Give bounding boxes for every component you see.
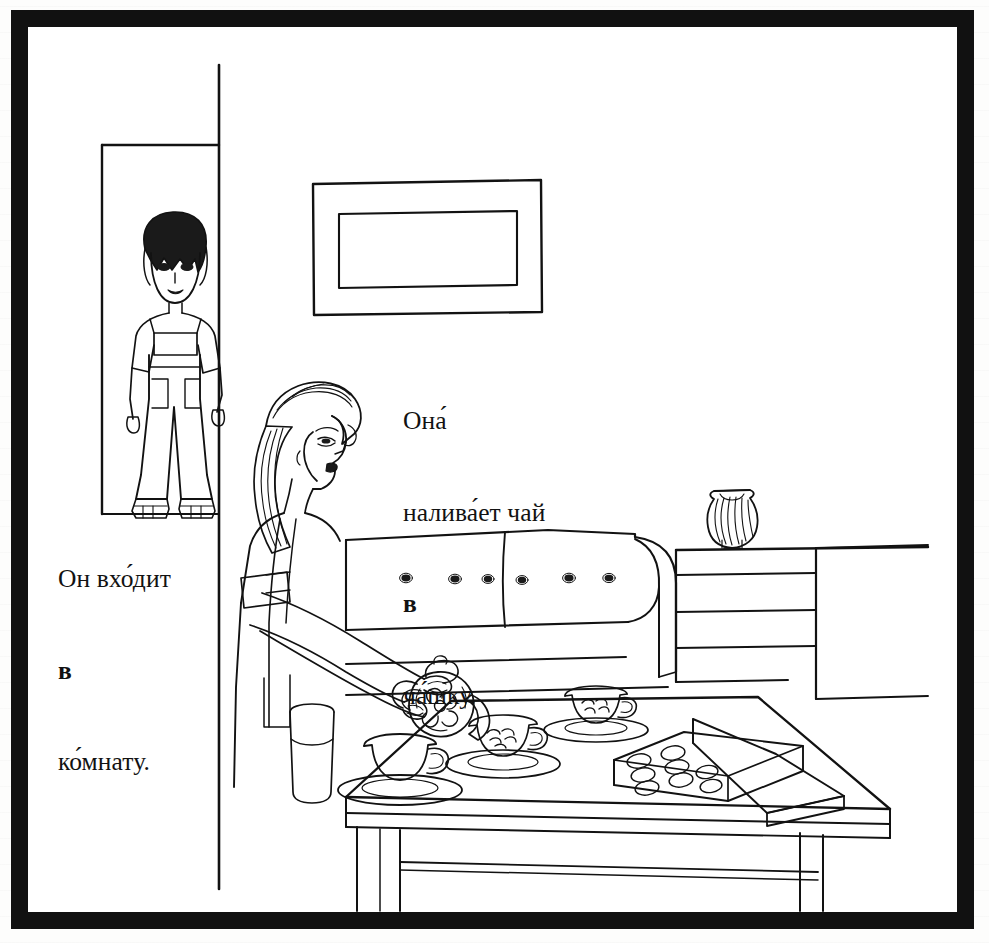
boy-figure bbox=[127, 212, 225, 518]
caption-left-line-2-preposition: в bbox=[58, 656, 171, 687]
chocolate-box bbox=[614, 719, 844, 826]
caption-right-line-4: ча́шку. bbox=[403, 681, 545, 712]
caption-right-line-3-preposition: в bbox=[403, 589, 545, 620]
caption-right-line-2: налива́ет чай bbox=[403, 498, 545, 529]
caption-she-pours-tea: Она́ налива́ет чай в ча́шку. bbox=[403, 345, 545, 772]
picture-frame bbox=[313, 180, 542, 315]
vase bbox=[707, 490, 757, 548]
tumbler bbox=[290, 704, 334, 803]
cup-patterned-far bbox=[544, 686, 648, 742]
caption-right-line-1: Она́ bbox=[403, 406, 545, 437]
caption-left-line-3: ко́мнату. bbox=[58, 747, 171, 778]
doorway bbox=[102, 145, 219, 514]
sideboard bbox=[676, 545, 928, 699]
caption-he-enters-the-room: Он вхо́дит в ко́мнату. bbox=[58, 503, 171, 839]
caption-left-line-1: Он вхо́дит bbox=[58, 564, 171, 595]
illustration-page: Он вхо́дит в ко́мнату. Она́ налива́ет ча… bbox=[0, 0, 989, 943]
